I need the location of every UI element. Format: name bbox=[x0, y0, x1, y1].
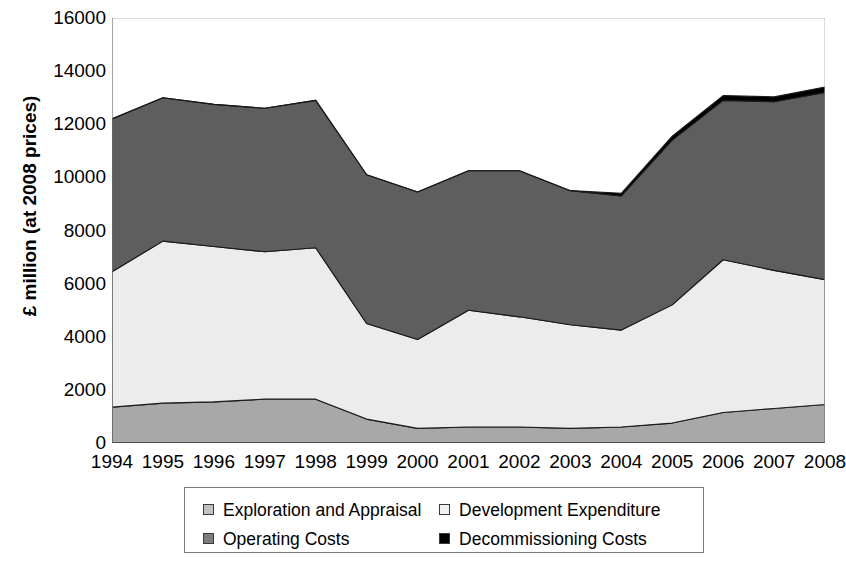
x-tick-label-1996: 1996 bbox=[193, 452, 235, 472]
x-tick-label-1999: 1999 bbox=[346, 452, 388, 472]
legend-swatch-exploration-and-appraisal bbox=[203, 504, 214, 515]
y-tick-label-2000: 2000 bbox=[28, 380, 106, 399]
legend-item-exploration-and-appraisal[interactable]: Exploration and Appraisal bbox=[185, 501, 439, 519]
legend-swatch-development-expenditure bbox=[439, 504, 450, 515]
x-tick-label-2000: 2000 bbox=[396, 452, 438, 472]
legend-item-development-expenditure[interactable]: Development Expenditure bbox=[439, 501, 703, 519]
x-tick-label-1994: 1994 bbox=[91, 452, 133, 472]
x-tick-label-1997: 1997 bbox=[244, 452, 286, 472]
x-tick-label-1995: 1995 bbox=[142, 452, 184, 472]
y-tick-label-14000: 14000 bbox=[28, 61, 106, 80]
x-tick-label-2005: 2005 bbox=[651, 452, 693, 472]
x-tick-label-2001: 2001 bbox=[447, 452, 489, 472]
legend-swatch-decommissioning-costs bbox=[439, 533, 450, 544]
legend-item-decommissioning-costs[interactable]: Decommissioning Costs bbox=[439, 530, 703, 548]
series-areas bbox=[112, 87, 825, 443]
x-tick-label-2003: 2003 bbox=[549, 452, 591, 472]
y-tick-label-12000: 12000 bbox=[28, 114, 106, 133]
legend-row-2: Operating Costs Decommissioning Costs bbox=[185, 524, 703, 553]
y-tick-label-4000: 4000 bbox=[28, 327, 106, 346]
y-tick-label-8000: 8000 bbox=[28, 221, 106, 240]
x-axis-tick-labels: 1994199519961997199819992000200120022003… bbox=[0, 452, 845, 482]
x-tick-label-2008: 2008 bbox=[804, 452, 846, 472]
legend-label-operating-costs: Operating Costs bbox=[223, 530, 349, 548]
plot-svg bbox=[112, 18, 825, 443]
x-tick-label-2002: 2002 bbox=[498, 452, 540, 472]
legend-row-1: Exploration and Appraisal Development Ex… bbox=[185, 495, 703, 524]
legend-item-operating-costs[interactable]: Operating Costs bbox=[185, 530, 439, 548]
x-tick-label-2007: 2007 bbox=[753, 452, 795, 472]
x-tick-label-1998: 1998 bbox=[295, 452, 337, 472]
y-tick-label-6000: 6000 bbox=[28, 274, 106, 293]
plot-area bbox=[112, 18, 825, 443]
legend-label-decommissioning-costs: Decommissioning Costs bbox=[459, 530, 647, 548]
legend-label-development-expenditure: Development Expenditure bbox=[459, 501, 660, 519]
chart-legend: Exploration and Appraisal Development Ex… bbox=[184, 487, 704, 553]
legend-label-exploration-and-appraisal: Exploration and Appraisal bbox=[223, 501, 421, 519]
x-tick-label-2004: 2004 bbox=[600, 452, 642, 472]
y-tick-label-10000: 10000 bbox=[28, 167, 106, 186]
legend-swatch-operating-costs bbox=[203, 533, 214, 544]
x-tick-label-2006: 2006 bbox=[702, 452, 744, 472]
y-tick-label-0: 0 bbox=[28, 433, 106, 452]
y-tick-label-16000: 16000 bbox=[28, 8, 106, 27]
